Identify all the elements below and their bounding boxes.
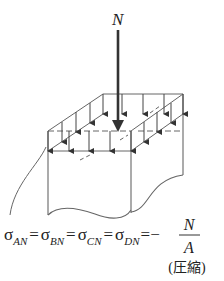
column-body: [48, 94, 183, 218]
stress-formula: σAN=σBN=σCN=σDN=− N A (圧縮): [4, 216, 206, 276]
fraction-denominator: A: [183, 239, 194, 256]
load-arrow: [112, 30, 124, 132]
compression-note: (圧縮): [168, 260, 206, 276]
fraction-numerator: N: [183, 216, 196, 233]
load-label: N: [111, 10, 125, 29]
leader-line: [10, 147, 46, 215]
svg-text:σAN=σBN=σCN=σDN=−: σAN=σBN=σCN=σDN=−: [4, 225, 160, 247]
stress-diagram: N: [0, 0, 224, 281]
